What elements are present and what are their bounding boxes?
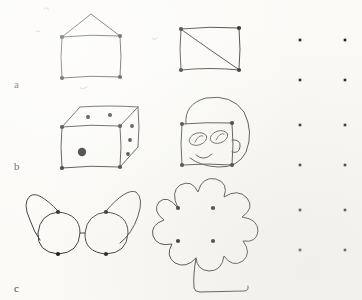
vertex-dot [176, 206, 180, 210]
vertex-dot [118, 124, 122, 128]
flower-petals [152, 179, 258, 271]
drawing-face [180, 97, 250, 167]
vertex-dot [60, 166, 64, 170]
die-pip-top [108, 113, 112, 117]
grid-dot [299, 249, 302, 252]
vertex-dot [104, 252, 108, 256]
drawing-eyeglasses [26, 191, 141, 256]
lens-left [38, 212, 80, 254]
vertex-dot [60, 76, 64, 80]
eye-right [209, 129, 230, 146]
drawing-house [60, 14, 122, 80]
grid-dot [299, 79, 302, 82]
vertex-dot [230, 163, 234, 167]
grid-dot [299, 39, 302, 42]
row-label-b: b [14, 160, 20, 172]
vertex-dot [118, 165, 122, 169]
drawing-flower [152, 179, 258, 292]
vertex-dot [60, 35, 64, 39]
vertex-dot [176, 239, 180, 243]
vertex-dot [237, 68, 241, 72]
drawing-square-diagonal [179, 26, 241, 72]
grid-dot [344, 209, 347, 212]
vertex-dot [230, 121, 234, 125]
vertex-dot [237, 26, 241, 30]
vertex-dot [118, 75, 122, 79]
vertex-dot [56, 252, 60, 256]
dot-grid [299, 39, 347, 252]
vertex-dot [211, 239, 215, 243]
grid-dot [299, 124, 302, 127]
vertex-dot [56, 210, 60, 214]
die-pip-right [128, 138, 132, 142]
vertex-dot [180, 163, 184, 167]
die-pip-front [78, 148, 86, 156]
vertex-dot [60, 125, 64, 129]
die-pip-top [86, 115, 90, 119]
figure-sheet: a b c [0, 0, 362, 300]
vertex-dot [179, 68, 183, 72]
die-pip-right [130, 124, 134, 128]
drawing-die-cube [60, 106, 139, 170]
vertex-dot [211, 206, 215, 210]
grid-dot [299, 209, 302, 212]
vertex-dot [179, 27, 183, 31]
grid-dot [299, 164, 302, 167]
vertex-dot [104, 210, 108, 214]
drawings-canvas [0, 0, 362, 300]
smile [196, 154, 212, 158]
grid-dot [344, 124, 347, 127]
lens-right [85, 212, 128, 254]
grid-dot [344, 164, 347, 167]
grid-dot [344, 39, 347, 42]
row-label-c: c [14, 282, 19, 294]
grid-dot [344, 249, 347, 252]
vertex-dot [118, 34, 122, 38]
grid-dot [344, 79, 347, 82]
eye-left [188, 131, 209, 148]
row-label-a: a [14, 78, 19, 90]
die-pip-right [126, 152, 130, 156]
vertex-dot [180, 122, 184, 126]
